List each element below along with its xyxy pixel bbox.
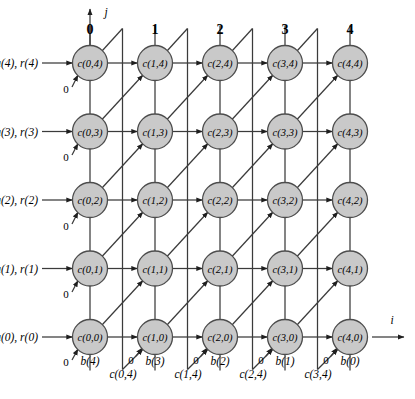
node-2-4[interactable]: c(2,4): [203, 46, 238, 81]
b-label-1: b(3): [145, 355, 164, 367]
node-label: c(3,4): [273, 58, 298, 70]
node-4-2[interactable]: c(4,2): [333, 183, 368, 218]
zero-input-left-label-2: 0: [63, 220, 69, 232]
row-label-4: a(0), r(0): [0, 331, 38, 343]
node-label: c(1,3): [143, 127, 168, 139]
node-3-4[interactable]: c(3,4): [268, 46, 303, 81]
zero-input-left-label-3: 0: [63, 288, 69, 300]
node-1-1[interactable]: c(1,1): [138, 251, 173, 286]
zero-input-left-2: [72, 212, 78, 224]
row-label-2: a(2), r(2): [0, 194, 38, 206]
node-label: c(4,0): [338, 332, 363, 344]
zero-input-bottom-1: [201, 348, 207, 356]
node-label: c(2,3): [208, 127, 233, 139]
node-1-3[interactable]: c(1,3): [138, 114, 173, 149]
node-0-3[interactable]: c(0,3): [73, 114, 108, 149]
node-0-4[interactable]: c(0,4): [73, 46, 108, 81]
node-1-0[interactable]: c(1,0): [138, 320, 173, 355]
b-label-4: b(0): [340, 355, 359, 367]
row-label-3: a(1), r(1): [0, 263, 38, 275]
node-label: c(1,4): [143, 58, 168, 70]
node-3-2[interactable]: c(3,2): [268, 183, 303, 218]
row-label-1: a(3), r(3): [0, 126, 38, 138]
zero-input-left-label-4: 0: [63, 356, 69, 368]
node-1-4[interactable]: c(1,4): [138, 46, 173, 81]
c-feedback-label-1: c(1,4): [174, 368, 201, 380]
row-label-0: a(4), r(4): [0, 57, 38, 69]
node-4-0[interactable]: c(4,0): [333, 320, 368, 355]
feedback-cap-2: [232, 29, 253, 52]
column-header-4: 4: [347, 22, 354, 38]
node-label: c(0,0): [78, 332, 103, 344]
node-label: c(2,0): [208, 332, 233, 344]
zero-input-left-label-1: 0: [63, 151, 69, 163]
node-label: c(1,1): [143, 264, 168, 276]
c-feedback-label-3: c(3,4): [304, 368, 331, 380]
node-label: c(0,1): [78, 264, 103, 276]
node-0-1[interactable]: c(0,1): [73, 251, 108, 286]
node-2-1[interactable]: c(2,1): [203, 251, 238, 286]
node-label: c(1,0): [143, 332, 168, 344]
node-2-0[interactable]: c(2,0): [203, 320, 238, 355]
node-label: c(3,2): [273, 195, 298, 207]
axis-label-i: i: [390, 314, 393, 326]
zero-input-bottom-label-3: 0: [323, 354, 329, 366]
zero-input-left-0: [72, 75, 78, 87]
zero-input-left-3: [72, 281, 78, 293]
node-label: c(0,3): [78, 127, 103, 139]
diagram-canvas: c(0,4)c(1,4)c(2,4)c(3,4)c(4,4)c(0,3)c(1,…: [0, 0, 415, 399]
node-3-3[interactable]: c(3,3): [268, 114, 303, 149]
node-0-0[interactable]: c(0,0): [73, 320, 108, 355]
column-header-2: 2: [217, 22, 224, 38]
zero-input-bottom-2: [266, 348, 272, 356]
c-feedback-label-2: c(2,4): [239, 368, 266, 380]
c-feedback-label-0: c(0,4): [109, 368, 136, 380]
node-label: c(0,4): [78, 58, 103, 70]
diagram-svg: c(0,4)c(1,4)c(2,4)c(3,4)c(4,4)c(0,3)c(1,…: [0, 0, 415, 399]
node-4-1[interactable]: c(4,1): [333, 251, 368, 286]
zero-input-bottom-0: [136, 348, 142, 356]
zero-input-left-1: [72, 144, 78, 156]
b-label-3: b(1): [275, 355, 294, 367]
zero-input-bottom-label-0: 0: [128, 354, 134, 366]
zero-input-left-4: [72, 349, 78, 360]
node-label: c(3,1): [273, 264, 298, 276]
node-label: c(2,1): [208, 264, 233, 276]
node-label: c(4,1): [338, 264, 363, 276]
node-label: c(2,4): [208, 58, 233, 70]
node-3-0[interactable]: c(3,0): [268, 320, 303, 355]
axis-label-j: j: [104, 6, 107, 18]
zero-input-left-label-0: 0: [63, 83, 69, 95]
zero-input-bottom-3: [331, 348, 337, 356]
node-label: c(0,2): [78, 195, 103, 207]
node-label: c(1,2): [143, 195, 168, 207]
node-2-2[interactable]: c(2,2): [203, 183, 238, 218]
node-label: c(3,0): [273, 332, 298, 344]
feedback-cap-1: [167, 29, 188, 52]
column-header-1: 1: [152, 22, 159, 38]
b-label-2: b(2): [210, 355, 229, 367]
node-4-3[interactable]: c(4,3): [333, 114, 368, 149]
feedback-cap-3: [297, 29, 318, 52]
column-header-3: 3: [282, 22, 289, 38]
node-1-2[interactable]: c(1,2): [138, 183, 173, 218]
node-label: c(4,3): [338, 127, 363, 139]
node-0-2[interactable]: c(0,2): [73, 183, 108, 218]
node-2-3[interactable]: c(2,3): [203, 114, 238, 149]
node-label: c(2,2): [208, 195, 233, 207]
zero-input-bottom-label-2: 0: [258, 354, 264, 366]
node-label: c(4,2): [338, 195, 363, 207]
feedback-cap-0: [102, 29, 123, 52]
zero-input-bottom-label-1: 0: [193, 354, 199, 366]
b-label-0: b(4): [80, 355, 99, 367]
node-3-1[interactable]: c(3,1): [268, 251, 303, 286]
node-label: c(3,3): [273, 127, 298, 139]
column-header-0: 0: [87, 22, 94, 38]
node-4-4[interactable]: c(4,4): [333, 46, 368, 81]
node-label: c(4,4): [338, 58, 363, 70]
